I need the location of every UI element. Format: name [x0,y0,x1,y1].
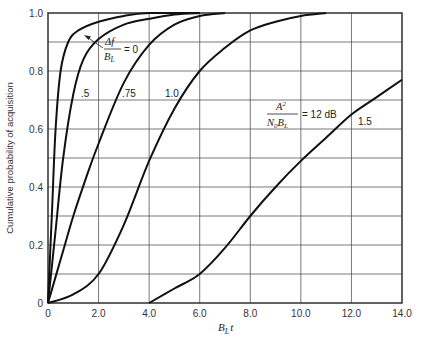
svg-text:Δf: Δf [104,36,116,47]
acquisition-probability-chart: 00.20.40.60.81.0 02.04.06.08.010.012.014… [0,0,425,343]
svg-text:BL: BL [104,51,115,64]
y-axis-label: Cumulative probability of acquisition [4,82,15,234]
y-tick-label: 0.8 [29,66,43,77]
curve-0.75-label: .75 [122,88,136,99]
y-tick-label: 0.4 [29,182,43,193]
x-tick-label: 14.0 [392,308,412,319]
svg-text:N0BL: N0BL [266,117,288,130]
x-axis-label: BLt [218,321,234,336]
curve-1.0-label: 1.0 [165,88,179,99]
x-axis-ticks: 02.04.06.08.010.012.014.0 [45,308,412,319]
x-tick-label: 8.0 [243,308,257,319]
x-tick-label: 0 [45,308,51,319]
curve-0.5-label: .5 [81,88,90,99]
x-tick-label: 10.0 [291,308,311,319]
x-tick-label: 12.0 [342,308,362,319]
snr-label: A2 N0BL = 12 dB [266,100,337,130]
grid-lines [48,13,402,303]
svg-text:= 0: = 0 [124,44,139,55]
svg-text:A2: A2 [275,100,286,112]
svg-text:= 12 dB: = 12 dB [302,109,337,120]
curve-1.5-label: 1.5 [358,116,372,127]
curve-0-label: Δf BL = 0 [84,35,139,64]
x-tick-label: 6.0 [193,308,207,319]
x-tick-label: 2.0 [92,308,106,319]
y-tick-label: 0.2 [29,240,43,251]
x-tick-label: 4.0 [142,308,156,319]
y-tick-label: 0 [37,298,43,309]
y-axis-ticks: 00.20.40.60.81.0 [29,8,43,309]
curve-1.5 [149,80,402,303]
y-tick-label: 0.6 [29,124,43,135]
y-tick-label: 1.0 [29,8,43,19]
